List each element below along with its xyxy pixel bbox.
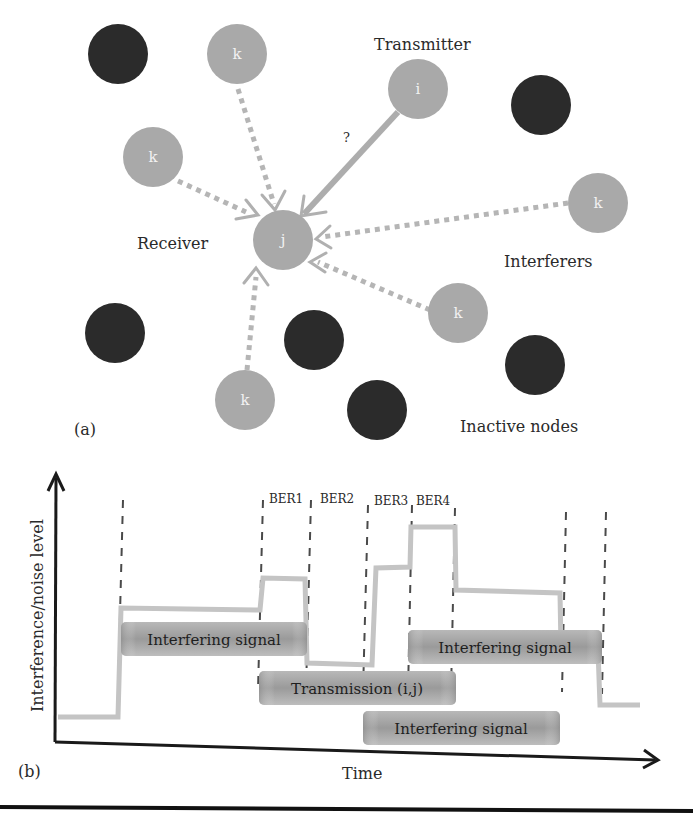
arrowhead-from-k-top	[262, 191, 285, 210]
signal-bars: Interfering signal Transmission (i,j) In…	[121, 622, 602, 745]
bar-interfering-1-label: Interfering signal	[147, 631, 281, 649]
inactive-node-circle	[347, 380, 407, 440]
bar-interfering-2: Interfering signal	[408, 630, 602, 664]
panel-a-network: kikkjkk Transmitter ? Receiver Interfere…	[74, 24, 628, 440]
label-question: ?	[343, 130, 350, 145]
bottom-rule	[0, 807, 693, 811]
node-k-left: k	[123, 127, 183, 187]
bar-interfering-3: Interfering signal	[363, 711, 560, 745]
bar-interfering-3-label: Interfering signal	[394, 720, 528, 738]
node-inactive-2	[511, 75, 571, 135]
inactive-node-circle	[284, 310, 344, 370]
node-i: i	[388, 59, 448, 119]
label-interferers: Interferers	[504, 252, 593, 271]
node-label: k	[148, 148, 158, 166]
ber2-label: BER2	[320, 492, 354, 506]
inactive-node-circle	[88, 24, 148, 84]
bar-interfering-2-label: Interfering signal	[438, 639, 572, 657]
bar-interfering-1: Interfering signal	[121, 622, 307, 656]
ber3-label: BER3	[374, 494, 408, 508]
link-i-to-j	[304, 112, 398, 214]
link-k-right-to-j	[322, 203, 568, 237]
y-axis	[55, 478, 56, 742]
link-k-left-to-j	[178, 181, 246, 212]
x-axis-label: Time	[342, 764, 382, 783]
node-k-top: k	[207, 24, 267, 84]
node-inactive-4	[284, 310, 344, 370]
link-k-bottom-to-j	[247, 277, 256, 370]
node-k-bottom: k	[215, 370, 275, 430]
panel-b-timeline: Interfering signal Transmission (i,j) In…	[18, 474, 658, 783]
ber4-label: BER4	[416, 494, 451, 508]
label-receiver: Receiver	[137, 234, 209, 253]
marker-t7	[602, 512, 606, 694]
node-k-midright: k	[428, 283, 488, 343]
x-axis	[55, 742, 655, 760]
node-label: i	[416, 80, 421, 98]
node-inactive-5	[505, 335, 565, 395]
node-inactive-3	[85, 303, 145, 363]
bar-transmission-label: Transmission (i,j)	[291, 680, 423, 698]
link-k-midright-to-j	[318, 262, 430, 310]
arrowhead-from-k-left	[236, 200, 258, 219]
panel-a-label: (a)	[74, 420, 96, 439]
figure: kikkjkk Transmitter ? Receiver Interfere…	[0, 0, 693, 819]
node-j: j	[253, 210, 313, 270]
node-inactive-1	[88, 24, 148, 84]
y-axis-label: Interference/noise level	[28, 519, 47, 712]
arrowhead-from-k-bottom	[244, 268, 268, 285]
inactive-node-circle	[511, 75, 571, 135]
node-label: k	[232, 45, 242, 63]
node-label: k	[593, 194, 603, 212]
node-label: k	[240, 391, 250, 409]
node-inactive-6	[347, 380, 407, 440]
link-k-top-to-j	[238, 89, 274, 204]
inactive-node-circle	[505, 335, 565, 395]
node-label: k	[453, 304, 463, 322]
bar-transmission: Transmission (i,j)	[259, 671, 456, 705]
node-k-right: k	[568, 173, 628, 233]
inactive-node-circle	[85, 303, 145, 363]
interference-links	[178, 89, 568, 370]
label-inactive-nodes: Inactive nodes	[460, 417, 578, 436]
ber1-label: BER1	[269, 492, 303, 506]
label-transmitter: Transmitter	[374, 35, 471, 54]
panel-b-label: (b)	[18, 762, 41, 781]
